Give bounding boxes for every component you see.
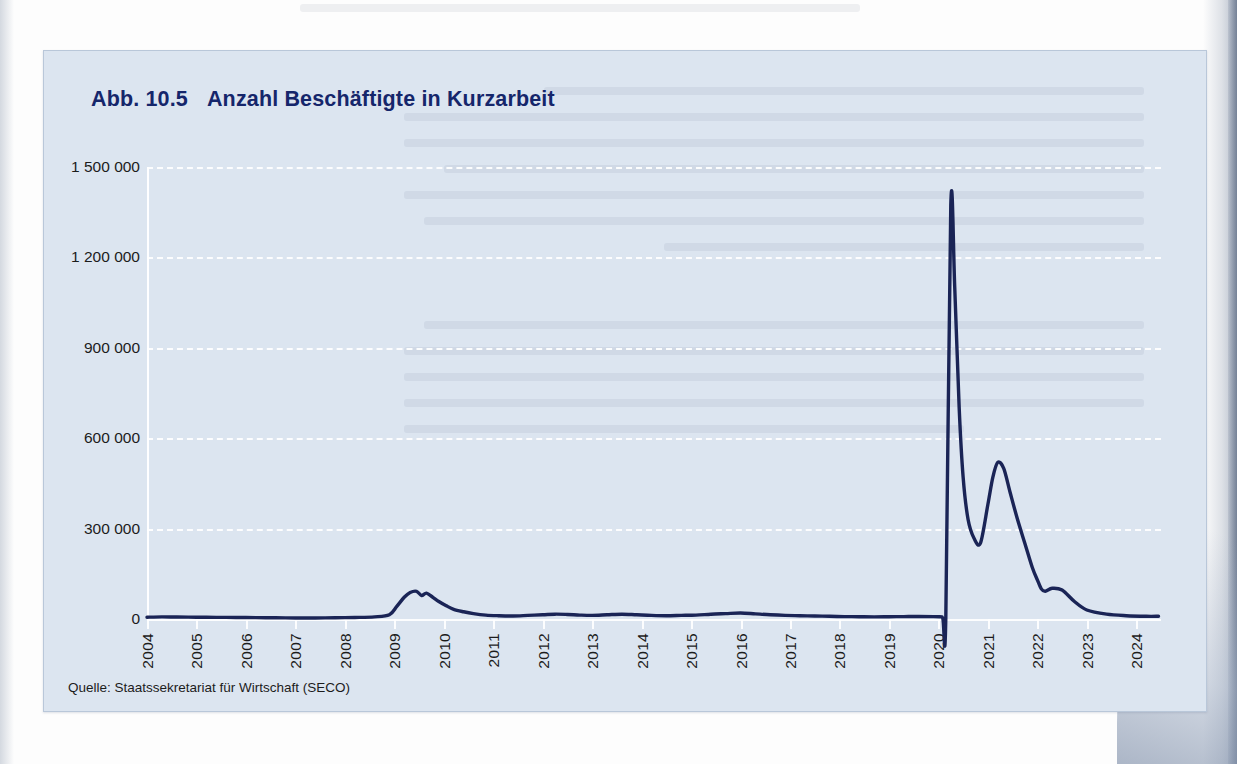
- x-axis-tick-label: 2020: [930, 633, 948, 669]
- gridline: [147, 348, 1161, 350]
- x-axis-tick-label: 2019: [881, 633, 899, 669]
- x-axis-tick: [938, 619, 940, 629]
- gridline: [147, 257, 1161, 259]
- x-axis-tick: [394, 619, 396, 629]
- x-axis-tick-label: 2004: [139, 633, 157, 669]
- y-axis-tick-label: 1 500 000: [71, 158, 140, 176]
- ghost-text-line: [300, 4, 860, 12]
- x-axis-tick-label: 2009: [386, 633, 404, 669]
- x-axis-tick: [295, 619, 297, 629]
- x-axis-tick: [1087, 619, 1089, 629]
- x-axis-tick: [345, 619, 347, 629]
- x-axis-tick: [988, 619, 990, 629]
- source-note: Quelle: Staatssekretariat für Wirtschaft…: [68, 680, 350, 695]
- x-axis-tick-label: 2013: [584, 633, 602, 669]
- x-axis-tick: [196, 619, 198, 629]
- x-axis-tick-label: 2011: [485, 633, 503, 668]
- plot-area: 0300 000600 000900 0001 200 0001 500 000…: [44, 51, 1206, 711]
- x-axis-tick: [592, 619, 594, 629]
- y-axis-tick-label: 900 000: [84, 339, 140, 357]
- x-axis-tick-label: 2014: [634, 633, 652, 669]
- y-axis-tick-label: 0: [131, 610, 140, 628]
- x-axis-tick-label: 2022: [1029, 633, 1047, 669]
- x-axis-tick: [1037, 619, 1039, 629]
- x-axis-tick-label: 2005: [188, 633, 206, 669]
- x-axis-tick-label: 2015: [683, 633, 701, 669]
- gridline: [147, 438, 1161, 440]
- x-axis-tick: [493, 619, 495, 629]
- x-axis-tick: [642, 619, 644, 629]
- x-axis-tick: [147, 619, 149, 629]
- gridline: [147, 529, 1161, 531]
- x-axis-tick: [691, 619, 693, 629]
- y-axis-labels: 0300 000600 000900 0001 200 0001 500 000: [44, 51, 140, 711]
- gridline: [147, 167, 1161, 169]
- x-axis-tick-label: 2007: [287, 633, 305, 669]
- x-axis-tick: [444, 619, 446, 629]
- page-binding-shadow: [0, 0, 14, 764]
- gridlines: [147, 51, 1161, 711]
- x-axis-tick: [543, 619, 545, 629]
- x-axis-tick-label: 2023: [1079, 633, 1097, 669]
- x-axis-tick-label: 2012: [535, 633, 553, 669]
- x-axis-tick-label: 2010: [436, 633, 454, 669]
- y-axis-tick-label: 300 000: [84, 520, 140, 538]
- x-axis-tick-label: 2016: [733, 633, 751, 669]
- x-axis-ticks: [147, 619, 1161, 631]
- x-axis-tick: [1136, 619, 1138, 629]
- y-axis-line: [147, 167, 149, 619]
- x-axis-tick-label: 2008: [337, 633, 355, 669]
- y-axis-tick-label: 600 000: [84, 429, 140, 447]
- x-axis-tick-label: 2006: [238, 633, 256, 669]
- x-axis-tick: [839, 619, 841, 629]
- x-axis-tick-label: 2021: [980, 633, 998, 669]
- x-axis-tick: [790, 619, 792, 629]
- x-axis-tick: [741, 619, 743, 629]
- x-axis-tick: [889, 619, 891, 629]
- x-axis-tick-label: 2017: [782, 633, 800, 669]
- figure-card: Abb. 10.5Anzahl Beschäftigte in Kurzarbe…: [43, 50, 1207, 712]
- x-axis-tick: [246, 619, 248, 629]
- x-axis-tick-label: 2018: [831, 633, 849, 669]
- y-axis-tick-label: 1 200 000: [71, 248, 140, 266]
- x-axis-tick-label: 2024: [1128, 633, 1146, 669]
